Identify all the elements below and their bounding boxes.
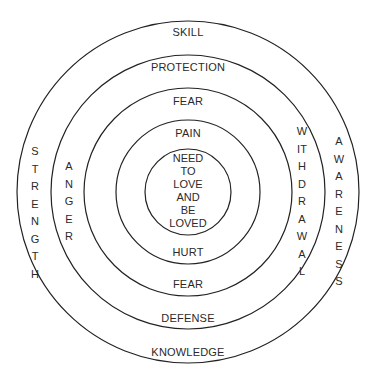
center-line: LOVED xyxy=(158,217,218,230)
label-awareness: AWARENESS xyxy=(333,133,345,291)
center-line: AND xyxy=(158,191,218,204)
center-line: LOVE xyxy=(158,178,218,191)
center-line: TO xyxy=(158,165,218,178)
label-defense: DEFENSE xyxy=(161,312,214,324)
label-skill: SKILL xyxy=(173,26,204,38)
center-line: BE xyxy=(158,204,218,217)
label-fear-top: FEAR xyxy=(173,95,203,107)
label-fear-bottom: FEAR xyxy=(173,278,203,290)
label-protection: PROTECTION xyxy=(151,61,225,73)
center-line: NEED xyxy=(158,152,218,165)
label-pain: PAIN xyxy=(175,127,201,139)
label-withdrawal: WITHDRAWAL xyxy=(296,123,308,281)
concentric-emotion-diagram: SKILL PROTECTION FEAR PAIN NEED TO LOVE … xyxy=(0,0,375,385)
label-strength: STRENGTH xyxy=(29,143,41,283)
center-label-need-to-love: NEED TO LOVE AND BE LOVED xyxy=(158,152,218,230)
label-hurt: HURT xyxy=(172,246,203,258)
label-anger: ANGER xyxy=(63,158,75,246)
label-knowledge: KNOWLEDGE xyxy=(151,346,224,358)
